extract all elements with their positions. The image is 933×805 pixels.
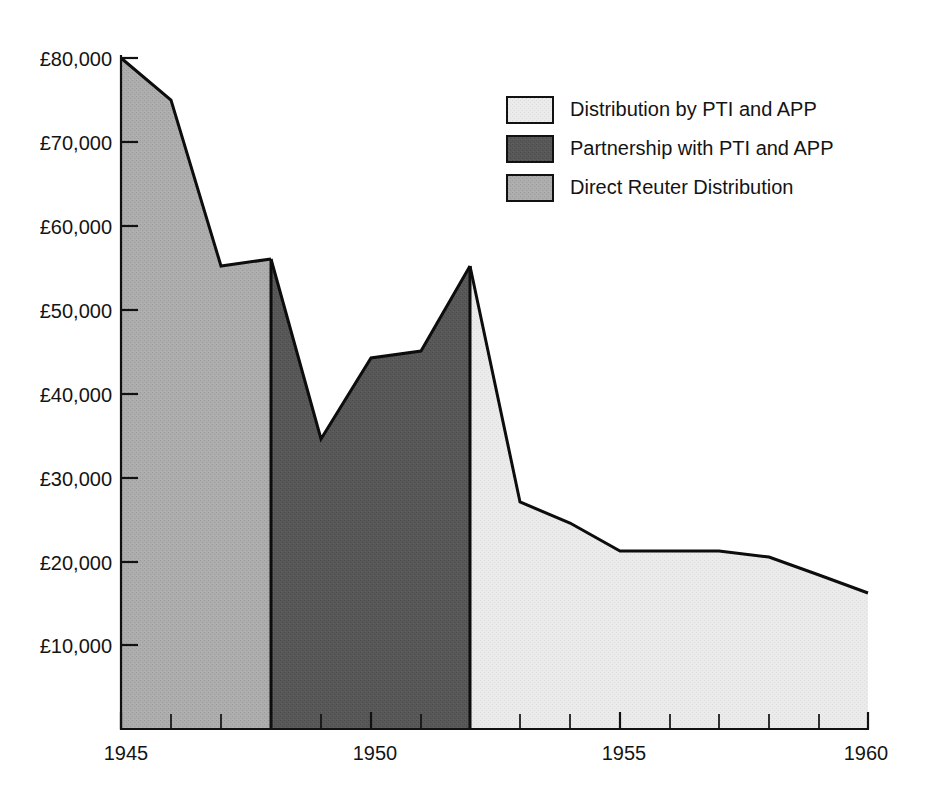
y-tick-label-50000: £50,000 xyxy=(40,300,112,322)
x-axis-tick-labels: 1945 1950 1955 1960 xyxy=(104,742,889,764)
legend-item-distribution-by-pti-and-app[interactable]: Distribution by PTI and APP xyxy=(507,97,817,123)
y-axis-tick-labels: £80,000 £70,000 £60,000 £50,000 £40,000 … xyxy=(40,48,112,657)
y-tick-label-70000: £70,000 xyxy=(40,132,112,154)
y-tick-label-10000: £10,000 xyxy=(40,635,112,657)
legend-label-direct-reuter-distribution: Direct Reuter Distribution xyxy=(570,176,793,198)
chart-container: £80,000 £70,000 £60,000 £50,000 £40,000 … xyxy=(0,0,933,805)
x-tick-label-1955: 1955 xyxy=(602,742,647,764)
area-chart: £80,000 £70,000 £60,000 £50,000 £40,000 … xyxy=(0,0,933,805)
y-tick-label-20000: £20,000 xyxy=(40,552,112,574)
y-tick-label-30000: £30,000 xyxy=(40,468,112,490)
legend-item-partnership-with-pti-and-app[interactable]: Partnership with PTI and APP xyxy=(507,136,833,162)
x-tick-label-1960: 1960 xyxy=(844,742,889,764)
x-tick-label-1945: 1945 xyxy=(104,742,149,764)
y-tick-label-80000: £80,000 xyxy=(40,48,112,70)
area-distribution-by-pti-app xyxy=(470,266,868,729)
area-partnership-pti-app xyxy=(271,259,470,729)
legend-swatch-distribution-by-pti-and-app xyxy=(507,97,553,123)
chart-legend: Distribution by PTI and APP Partnership … xyxy=(507,97,833,201)
y-tick-label-60000: £60,000 xyxy=(40,216,112,238)
y-tick-label-40000: £40,000 xyxy=(40,384,112,406)
legend-label-distribution-by-pti-and-app: Distribution by PTI and APP xyxy=(570,98,817,120)
x-tick-label-1950: 1950 xyxy=(353,742,398,764)
area-direct-reuter-distribution xyxy=(121,58,271,729)
legend-swatch-direct-reuter-distribution xyxy=(507,175,553,201)
legend-label-partnership-with-pti-and-app: Partnership with PTI and APP xyxy=(570,137,833,159)
legend-item-direct-reuter-distribution[interactable]: Direct Reuter Distribution xyxy=(507,175,793,201)
legend-swatch-partnership-with-pti-and-app xyxy=(507,136,553,162)
